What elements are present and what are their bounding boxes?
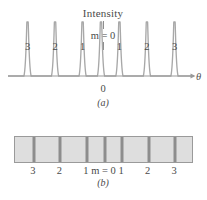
peak-label-5: 2 xyxy=(144,42,149,53)
fringe-label-5: 2 xyxy=(145,166,150,177)
fringe-0 xyxy=(32,137,35,162)
fringe-label-3: m = 0 xyxy=(91,166,116,177)
fringe-5 xyxy=(147,137,150,162)
caption-b: (b) xyxy=(97,178,109,188)
fringe-label-0: 3 xyxy=(30,166,35,177)
fringe-1 xyxy=(59,137,62,162)
panel-a-intensity-plot: Intensity m = 0 θ 0 (a) 321123 xyxy=(0,0,207,112)
fringe-label-6: 3 xyxy=(172,166,177,177)
peak-label-0: 3 xyxy=(25,42,30,53)
fringe-4 xyxy=(121,137,124,162)
theta-axis-group xyxy=(8,73,196,78)
peak-label-6: 3 xyxy=(172,42,177,53)
diffraction-grating-figure: Intensity m = 0 θ 0 (a) 321123 321m = 01… xyxy=(0,0,207,200)
peak-label-1: 2 xyxy=(52,42,57,53)
caption-a: (a) xyxy=(97,98,109,108)
screen-bar xyxy=(14,136,193,163)
panel-b-screen-fringes: 321m = 0123 (b) xyxy=(0,112,207,200)
fringe-3 xyxy=(103,137,106,162)
fringe-label-4: 1 xyxy=(119,166,124,177)
peak-label-2: 1 xyxy=(80,42,85,53)
fringe-label-2: 1 xyxy=(83,166,88,177)
fringe-6 xyxy=(174,137,177,162)
peaks-group xyxy=(8,22,194,76)
fringe-label-1: 2 xyxy=(57,166,62,177)
theta-arrowhead xyxy=(191,73,196,78)
origin-label: 0 xyxy=(100,84,105,95)
intensity-curve xyxy=(8,22,194,76)
fringe-2 xyxy=(85,137,88,162)
peak-label-4: 1 xyxy=(117,42,122,53)
theta-axis-label: θ xyxy=(196,72,201,83)
